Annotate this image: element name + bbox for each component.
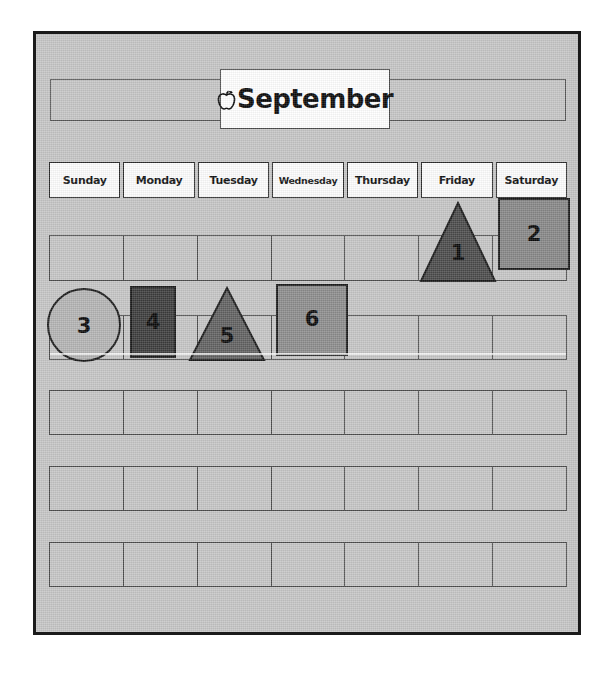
weekday-header-saturday: Saturday <box>496 162 567 198</box>
day-cell[interactable] <box>50 543 124 586</box>
weekday-header-friday: Friday <box>421 162 492 198</box>
day-cell[interactable] <box>198 391 272 434</box>
day-cell[interactable] <box>272 391 346 434</box>
day-cell[interactable] <box>419 316 493 359</box>
weekday-label: Friday <box>439 174 475 187</box>
day-cell[interactable] <box>345 316 419 359</box>
weekday-header-wednesday: Wednesday <box>272 162 343 198</box>
day-cell[interactable] <box>493 316 566 359</box>
day-cell[interactable] <box>419 391 493 434</box>
day-cell[interactable] <box>124 391 198 434</box>
week-row-5 <box>49 542 567 587</box>
weekday-label: Wednesday <box>279 175 338 186</box>
week-row-4 <box>49 466 567 511</box>
weekday-header-tuesday: Tuesday <box>198 162 269 198</box>
day-cell[interactable] <box>493 391 566 434</box>
day-cell[interactable] <box>493 467 566 510</box>
day-cell[interactable] <box>50 391 124 434</box>
weekday-label: Sunday <box>63 174 107 187</box>
weekday-header-monday: Monday <box>123 162 194 198</box>
day-cell[interactable] <box>50 467 124 510</box>
day-cell[interactable] <box>272 467 346 510</box>
day-shape-5[interactable]: 5 <box>188 286 266 362</box>
day-cell[interactable] <box>493 543 566 586</box>
day-cell[interactable] <box>345 236 419 280</box>
day-cell[interactable] <box>124 236 198 280</box>
day-cell[interactable] <box>272 543 346 586</box>
day-number: 5 <box>188 324 266 348</box>
day-cell[interactable] <box>345 391 419 434</box>
day-cell[interactable] <box>198 543 272 586</box>
weekday-label: Monday <box>136 174 183 187</box>
day-cell[interactable] <box>345 467 419 510</box>
day-number: 1 <box>419 241 497 265</box>
day-cell[interactable] <box>50 236 124 280</box>
day-cell[interactable] <box>345 543 419 586</box>
day-cell[interactable] <box>124 543 198 586</box>
weekday-header-sunday: Sunday <box>49 162 120 198</box>
day-shape-3[interactable]: 3 <box>47 288 121 362</box>
day-shape-6[interactable]: 6 <box>276 284 348 356</box>
day-number: 2 <box>500 222 568 246</box>
day-shape-1[interactable]: 1 <box>419 201 497 283</box>
calendar-page: September Sunday Monday Tuesday Wednesda… <box>33 31 581 635</box>
day-number: 4 <box>132 310 174 334</box>
weekday-header-row: Sunday Monday Tuesday Wednesday Thursday… <box>49 162 567 198</box>
day-cell[interactable] <box>198 236 272 280</box>
day-cell[interactable] <box>272 236 346 280</box>
day-number: 6 <box>278 307 346 331</box>
day-cell[interactable] <box>419 467 493 510</box>
day-shape-2[interactable]: 2 <box>498 198 570 270</box>
weekday-header-thursday: Thursday <box>347 162 418 198</box>
day-shape-4[interactable]: 4 <box>130 286 176 358</box>
day-cell[interactable] <box>198 467 272 510</box>
day-number: 3 <box>49 314 119 338</box>
day-cell[interactable] <box>419 543 493 586</box>
day-cell[interactable] <box>124 467 198 510</box>
weekday-label: Saturday <box>504 174 558 187</box>
apple-icon <box>217 90 236 111</box>
month-title-box: September <box>220 69 390 129</box>
weekday-label: Thursday <box>355 174 410 187</box>
week-row-3 <box>49 390 567 435</box>
weekday-label: Tuesday <box>209 174 257 187</box>
page-title: September <box>237 84 393 114</box>
